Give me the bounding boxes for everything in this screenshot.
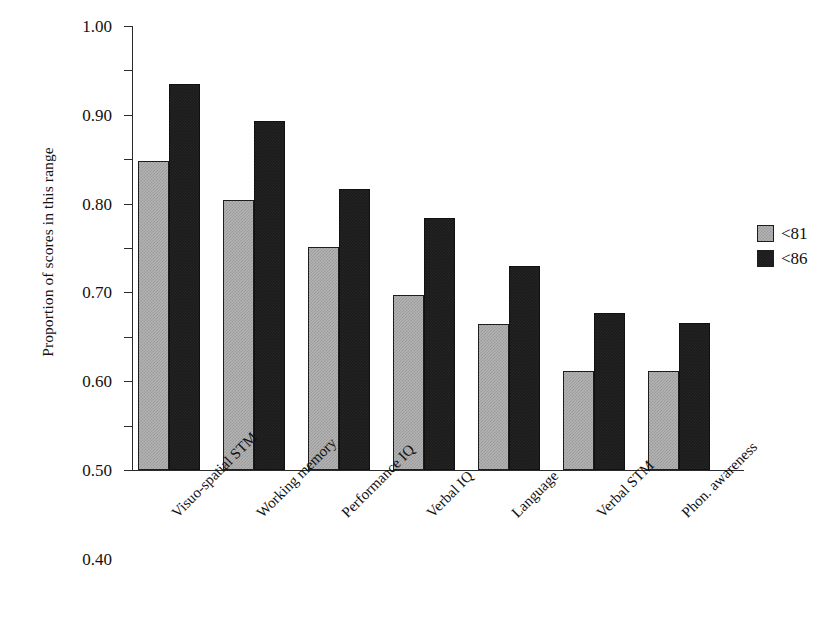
y-axis-title: Proportion of scores in this range — [39, 87, 57, 417]
plot-area: 1.000.900.800.700.600.500.400.300.200.10… — [132, 26, 744, 470]
bar — [594, 313, 625, 470]
y-tick-mark: 0.80 — [124, 115, 132, 116]
y-tick-label: 0.90 — [82, 106, 112, 123]
legend-item: <81 — [757, 221, 827, 246]
y-tick-label: 1.00 — [82, 18, 112, 35]
y-tick-mark: 0.30 — [124, 337, 132, 338]
bar — [138, 161, 169, 470]
y-tick-label: 0.80 — [82, 195, 112, 212]
y-tick-mark: 0.00 — [124, 470, 132, 471]
chart-legend: <81<86 — [757, 221, 827, 271]
bar — [648, 371, 679, 470]
legend-swatch-icon — [757, 225, 774, 242]
bar — [679, 323, 710, 470]
y-tick-label: 0.50 — [82, 462, 112, 479]
bar-group — [563, 26, 625, 470]
bar-group — [308, 26, 370, 470]
y-tick-mark: 0.10 — [124, 426, 132, 427]
y-tick-mark: 0.20 — [124, 381, 132, 382]
bar — [339, 189, 370, 470]
bar — [478, 324, 509, 470]
bar — [169, 84, 200, 470]
y-tick-mark: 0.50 — [124, 248, 132, 249]
legend-label: <86 — [781, 250, 808, 267]
y-tick-mark: 0.90 — [124, 70, 132, 71]
x-tick-label: Language — [509, 468, 561, 520]
x-tick-label: Verbal IQ — [424, 468, 476, 520]
legend-item: <86 — [757, 246, 827, 271]
y-tick-mark: 0.60 — [124, 204, 132, 205]
bar — [254, 121, 285, 470]
bar-group — [393, 26, 455, 470]
bar — [509, 266, 540, 470]
legend-swatch-icon — [757, 250, 774, 267]
y-tick-label: 0.60 — [82, 373, 112, 390]
bar — [424, 218, 455, 470]
bar-group — [648, 26, 710, 470]
y-tick-mark: 1.00 — [124, 26, 132, 27]
y-tick-label: 0.40 — [82, 550, 112, 567]
bar — [563, 371, 594, 470]
y-axis-line — [132, 26, 133, 471]
bar — [308, 247, 339, 470]
bar-group — [478, 26, 540, 470]
bar-group — [138, 26, 200, 470]
y-tick-label: 0.70 — [82, 284, 112, 301]
y-tick-mark: 0.40 — [124, 292, 132, 293]
y-tick-mark: 0.70 — [124, 159, 132, 160]
bar-group — [223, 26, 285, 470]
legend-label: <81 — [781, 225, 808, 242]
bar-chart-figure: Proportion of scores in this range 1.000… — [0, 0, 830, 632]
